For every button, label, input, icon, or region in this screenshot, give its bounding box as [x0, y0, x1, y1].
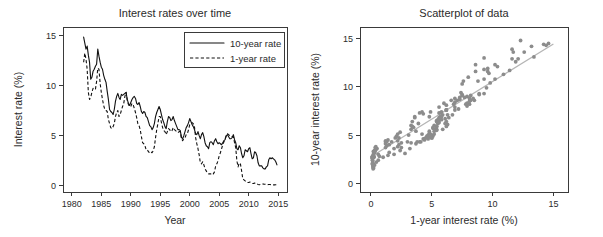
scatter-point	[437, 121, 441, 125]
scatter-point	[432, 129, 436, 133]
scatter-point	[449, 98, 453, 102]
scatter-point	[381, 155, 385, 159]
scatter-point	[457, 107, 461, 111]
scatter-point	[466, 75, 470, 79]
scatter-point	[458, 97, 462, 101]
scatter-point	[376, 152, 380, 156]
scatter-point	[418, 111, 422, 115]
scatter-point	[408, 147, 412, 151]
scatter-point	[544, 43, 548, 47]
scatter-point	[444, 108, 448, 112]
chart-title-right: Scatterplot of data	[419, 7, 509, 19]
scatter-point	[398, 130, 402, 134]
scatter-point	[508, 69, 512, 73]
x-ticklabel-left-5: 2005	[209, 199, 229, 209]
scatter-point	[476, 79, 480, 83]
scatter-point	[519, 39, 523, 43]
x-ticklabel-left-1: 1985	[91, 199, 111, 209]
scatter-point	[437, 111, 441, 115]
x-ticklabel-right-0: 0	[368, 199, 373, 209]
y-ticklabel-left-1: 5	[51, 131, 56, 141]
y-ticklabel-right-1: 5	[348, 131, 353, 141]
scatter-point	[441, 127, 445, 131]
x-ticklabel-left-4: 2000	[180, 199, 200, 209]
scatter-point	[488, 81, 492, 85]
y-axis-label-left: Interest rate (%)	[12, 72, 24, 147]
y-ticklabel-right-2: 10	[343, 82, 353, 92]
scatter-point	[413, 116, 417, 120]
scatter-point	[530, 44, 534, 48]
scatter-point	[516, 57, 520, 61]
scatter-point	[514, 60, 518, 64]
scatter-point	[384, 142, 388, 146]
scatter-point	[386, 138, 390, 142]
scatter-point	[471, 97, 475, 101]
scatter-point	[474, 63, 478, 67]
scatter-point	[511, 50, 515, 54]
scatter-point	[474, 69, 478, 73]
scatter-point	[396, 139, 400, 143]
scatter-point	[392, 147, 396, 151]
scatter-point	[425, 134, 429, 138]
scatter-point	[418, 140, 422, 144]
scatter-point	[477, 92, 481, 96]
x-axis-label-left: Year	[164, 214, 186, 226]
x-ticklabel-left-6: 2010	[239, 199, 259, 209]
scatter-point	[447, 116, 451, 120]
scatter-point	[420, 132, 424, 136]
scatter-point	[482, 56, 486, 60]
scatter-point	[392, 152, 396, 156]
scatter-point	[482, 68, 486, 72]
panel-interest-rates-over-time: Interest rates over time1980198519901995…	[0, 0, 301, 237]
scatter-point	[493, 77, 497, 81]
scatter-point	[409, 141, 413, 145]
scatter-point	[443, 122, 447, 126]
line-chart-svg: Interest rates over time1980198519901995…	[0, 0, 301, 237]
scatter-point	[493, 63, 497, 67]
scatter-point	[371, 167, 375, 171]
scatter-point	[412, 125, 416, 129]
x-axis-label-right: 1-year interest rate (%)	[410, 214, 517, 226]
scatter-point	[423, 137, 427, 141]
x-ticklabel-right-3: 15	[548, 199, 558, 209]
scatter-point	[407, 133, 411, 137]
plot-frame-right	[360, 27, 568, 192]
panel-scatterplot-of-data: Scatterplot of data0510150510151-year in…	[301, 0, 603, 237]
scatter-point	[393, 136, 397, 140]
scatter-point	[437, 105, 441, 109]
scatter-point	[451, 113, 455, 117]
scatter-point	[532, 55, 536, 59]
scatter-point	[406, 140, 410, 144]
x-ticklabel-right-1: 5	[429, 199, 434, 209]
scatter-point	[485, 86, 489, 90]
scatter-point	[416, 122, 420, 126]
y-ticklabel-right-0: 0	[348, 179, 353, 189]
scatter-points	[370, 39, 550, 171]
scatter-point	[373, 150, 377, 154]
scatter-point	[429, 110, 433, 114]
scatter-point	[427, 115, 431, 119]
scatter-point	[482, 92, 486, 96]
scatter-point	[374, 145, 378, 149]
scatter-point	[414, 129, 418, 133]
y-axis-label-right: 10-year interest rate (%)	[309, 53, 321, 166]
scatter-point	[440, 115, 444, 119]
scatter-point	[486, 67, 490, 71]
scatter-point	[453, 108, 457, 112]
x-ticklabel-left-7: 2015	[268, 199, 288, 209]
scatter-point	[482, 77, 486, 81]
scatter-point	[429, 132, 433, 136]
scatter-point	[463, 96, 467, 100]
legend-label-0: 10-year rate	[230, 38, 281, 49]
scatter-point	[386, 153, 390, 157]
x-ticklabel-left-3: 1995	[150, 199, 170, 209]
x-ticklabel-right-2: 10	[488, 199, 498, 209]
scatter-point	[410, 120, 414, 124]
scatter-point	[403, 152, 407, 156]
y-ticklabel-left-2: 10	[46, 81, 56, 91]
scatter-point	[464, 102, 468, 106]
scatter-point	[432, 124, 436, 128]
scatter-point	[384, 146, 388, 150]
y-ticklabel-left-0: 0	[51, 181, 56, 191]
scatter-point	[510, 57, 514, 61]
